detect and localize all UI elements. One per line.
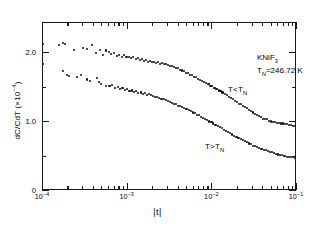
y-minor-tick [292,87,296,88]
data-point [96,77,98,79]
x-minor-tick [288,22,289,26]
x-minor-tick [178,186,179,190]
x-minor-tick [207,186,208,190]
x-minor-tick [178,22,179,26]
y-major-tick [42,121,49,122]
x-minor-tick [118,22,119,26]
x-minor-tick [114,22,115,26]
x-minor-tick [283,22,284,26]
y-minor-tick [292,156,296,157]
plot-frame: KNiF3 TN=246.72 K T<TN T>TN [42,22,296,190]
x-minor-tick [93,22,94,26]
series-label-below-tn: T<TN [228,85,247,94]
y-major-tick [42,52,49,53]
x-minor-tick [82,22,83,26]
x-major-tick [296,183,297,190]
x-minor-tick [167,186,168,190]
x-minor-tick [108,22,109,26]
data-point [91,44,93,46]
x-major-tick [211,22,212,29]
x-minor-tick [203,22,204,26]
x-minor-tick [252,186,253,190]
x-minor-tick [101,186,102,190]
y-major-tick [289,121,296,122]
x-minor-tick [237,22,238,26]
data-point [82,47,84,49]
series-label-above-tn: T>TN [205,142,224,151]
data-point [111,84,113,86]
data-point [105,85,107,87]
x-minor-tick [167,22,168,26]
x-minor-tick [67,22,68,26]
x-minor-tick [82,186,83,190]
x-minor-tick [198,186,199,190]
x-minor-tick [271,186,272,190]
data-point [80,74,82,76]
data-point [86,78,88,80]
y-axis-title: dC/CdT (×10−4) [13,46,22,176]
x-minor-tick [283,186,284,190]
data-point [294,157,295,159]
y-tick-label: 0 [20,186,36,195]
data-point [76,76,78,78]
x-major-tick [127,22,128,29]
x-minor-tick [252,22,253,26]
data-point [86,48,88,50]
x-minor-tick [262,186,263,190]
data-point [64,43,66,45]
x-minor-tick [114,186,115,190]
x-minor-tick [277,186,278,190]
x-tick-label: 10−1 [289,192,304,201]
x-tick-label: 10−2 [204,192,219,201]
x-minor-tick [67,186,68,190]
x-major-tick [42,22,43,29]
data-point [89,80,91,82]
y-major-tick [289,190,296,191]
x-major-tick [296,22,297,29]
data-point [105,49,107,51]
x-minor-tick [93,186,94,190]
x-minor-tick [186,186,187,190]
x-minor-tick [193,22,194,26]
data-point [99,49,101,51]
data-point [66,74,68,76]
x-minor-tick [262,22,263,26]
x-major-tick [211,183,212,190]
data-point [62,70,64,72]
data-point [100,83,102,85]
x-minor-tick [277,22,278,26]
x-minor-tick [292,22,293,26]
x-minor-tick [207,22,208,26]
x-major-tick [42,183,43,190]
x-tick-label: 10−3 [119,192,134,201]
data-point [58,44,60,46]
neel-temperature: TN=246.72 K [257,64,303,77]
x-minor-tick [152,22,153,26]
data-points-layer [43,23,295,189]
x-minor-tick [123,22,124,26]
data-point [118,54,120,56]
x-axis-title: |t| [0,207,315,217]
data-point [294,125,295,127]
y-tick-label: 1.0 [20,117,36,126]
data-point [43,63,44,65]
y-tick-label: 2.0 [20,48,36,57]
x-minor-tick [118,186,119,190]
data-point [114,87,116,89]
data-point [43,43,44,45]
x-minor-tick [108,186,109,190]
y-minor-tick [42,156,46,157]
sample-annotation: KNiF3 TN=246.72 K [257,51,303,77]
data-point [102,54,104,56]
data-point [121,56,123,58]
x-minor-tick [271,22,272,26]
y-major-tick [289,52,296,53]
y-minor-tick [42,87,46,88]
data-point [110,53,112,55]
x-major-tick [127,183,128,190]
x-minor-tick [203,186,204,190]
x-minor-tick [152,186,153,190]
x-minor-tick [123,186,124,190]
data-point [68,75,70,77]
figure-panel: KNiF3 TN=246.72 K T<TN T>TN 10−410−310−2… [0,0,315,229]
